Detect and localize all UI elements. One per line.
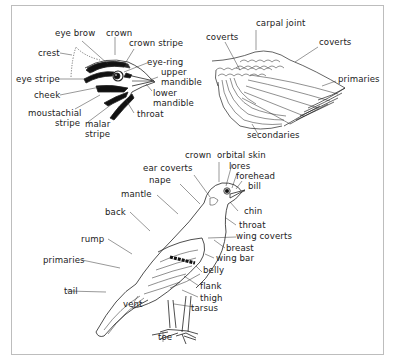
- label-malar-stripe-1: malar: [85, 120, 110, 129]
- label-secondaries: secondaries: [247, 131, 300, 140]
- label-upper-mandible-1: upper: [161, 68, 187, 77]
- label-throat: throat: [137, 110, 164, 119]
- label-orbital-skin: orbital skin: [217, 151, 266, 160]
- label-lower-mandible-1: lower: [153, 89, 177, 98]
- label-lores: lores: [229, 162, 250, 171]
- label-crest: crest: [38, 49, 60, 58]
- body-leader-lines: [67, 162, 245, 342]
- label-throat-body: throat: [239, 221, 266, 230]
- label-crown-body: crown: [185, 151, 211, 160]
- label-lower-mandible-2: mandible: [153, 99, 194, 108]
- label-back: back: [105, 208, 126, 217]
- label-flank: flank: [200, 282, 222, 291]
- label-mantle: mantle: [121, 190, 152, 199]
- label-nape: nape: [149, 176, 171, 185]
- label-breast: breast: [226, 244, 254, 253]
- label-vent: vent: [123, 300, 143, 309]
- label-chin: chin: [244, 207, 262, 216]
- label-primaries-body: primaries: [43, 256, 85, 265]
- label-thigh: thigh: [200, 294, 223, 303]
- label-primaries-wing: primaries: [338, 75, 380, 84]
- label-tarsus: tarsus: [191, 304, 218, 313]
- label-crown: crown: [106, 29, 132, 38]
- label-wing-coverts: wing coverts: [236, 232, 292, 241]
- label-coverts-left: coverts: [206, 33, 238, 42]
- label-upper-mandible-2: mandible: [161, 78, 202, 87]
- label-belly: belly: [203, 266, 224, 275]
- label-wing-bar: wing bar: [216, 254, 254, 263]
- label-malar-stripe-2: stripe: [85, 130, 110, 139]
- label-rump: rump: [81, 235, 104, 244]
- label-tail: tail: [64, 287, 78, 296]
- label-eye-ring: eye-ring: [147, 58, 183, 67]
- label-ear-coverts: ear coverts: [143, 164, 193, 173]
- label-forehead: forehead: [236, 172, 275, 181]
- label-crown-stripe: crown stripe: [129, 39, 183, 48]
- label-eye-stripe: eye stripe: [16, 75, 60, 84]
- label-coverts-right: coverts: [319, 38, 351, 47]
- label-moustachial-stripe-1: moustachial: [28, 109, 82, 118]
- label-eye-brow: eye brow: [55, 29, 95, 38]
- label-carpal-joint: carpal joint: [256, 19, 305, 28]
- label-moustachial-stripe-2: stripe: [55, 119, 80, 128]
- wing-illustration: [212, 51, 345, 129]
- label-toe: toe: [158, 333, 172, 342]
- label-cheek: cheek: [34, 91, 60, 100]
- label-bill: bill: [248, 182, 261, 191]
